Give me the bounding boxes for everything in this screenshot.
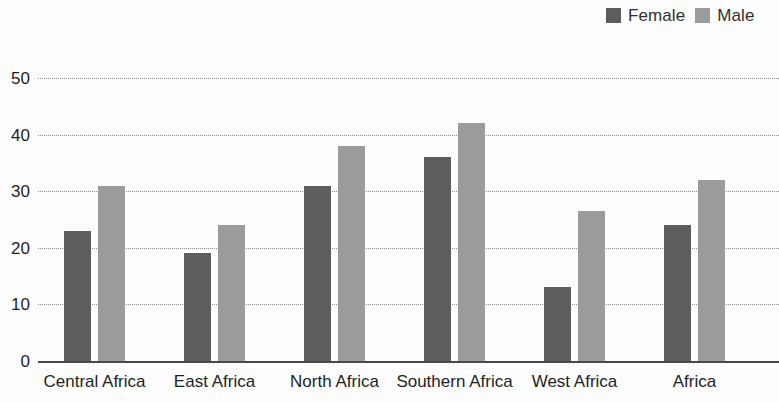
legend-item-male: Male	[695, 7, 754, 24]
y-axis-tick-10: 10	[0, 296, 30, 313]
plot-area	[38, 72, 779, 362]
bar-southern-africa-female	[424, 157, 451, 361]
y-axis-tick-0: 0	[0, 353, 30, 370]
y-axis-labels: 01020304050	[0, 72, 30, 362]
bar-north-africa-female	[304, 186, 331, 361]
x-axis-label-africa: Africa	[615, 372, 775, 392]
legend-label-male: Male	[717, 7, 754, 24]
bar-africa-male	[698, 180, 725, 361]
y-axis-tick-40: 40	[0, 127, 30, 144]
gridline-30	[38, 191, 779, 192]
bar-east-africa-male	[218, 225, 245, 361]
legend-item-female: Female	[606, 7, 685, 24]
bar-east-africa-female	[184, 253, 211, 361]
bar-central-africa-female	[64, 231, 91, 361]
bar-central-africa-male	[98, 186, 125, 361]
chart-legend: Female Male	[606, 5, 755, 25]
legend-label-female: Female	[628, 7, 685, 24]
y-axis-tick-30: 30	[0, 183, 30, 200]
x-axis-line	[38, 361, 779, 363]
gridline-50	[38, 78, 779, 79]
bar-chart: Female Male 01020304050 Central AfricaEa…	[0, 0, 779, 402]
bar-africa-female	[664, 225, 691, 361]
bar-north-africa-male	[338, 146, 365, 361]
y-axis-tick-50: 50	[0, 70, 30, 87]
legend-swatch-male-icon	[695, 8, 710, 23]
y-axis-tick-20: 20	[0, 240, 30, 257]
x-axis-category-labels: Central AfricaEast AfricaNorth AfricaSou…	[0, 372, 779, 402]
gridline-40	[38, 135, 779, 136]
bar-southern-africa-male	[458, 123, 485, 361]
legend-swatch-female-icon	[606, 8, 621, 23]
bar-west-africa-male	[578, 211, 605, 361]
bar-west-africa-female	[544, 287, 571, 361]
